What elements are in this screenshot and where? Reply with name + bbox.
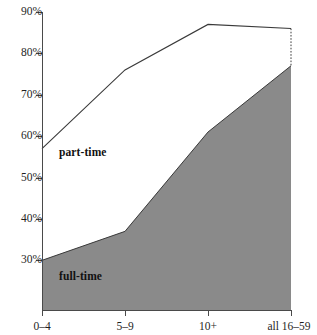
x-tick-label: 0–4 — [33, 320, 50, 332]
series-label-full-time: full-time — [59, 270, 102, 282]
y-tick-label: 40% — [8, 213, 42, 225]
chart-plot-area — [0, 0, 317, 335]
y-axis-line — [42, 12, 43, 310]
chart-figure: 30%40%50%60%70%80%90% 0–45–910+all 16–59… — [0, 0, 317, 335]
x-tick-label: 10+ — [199, 320, 217, 332]
y-tick-label: 50% — [8, 172, 42, 184]
x-axis-line — [42, 310, 291, 311]
x-tick-label: all 16–59 — [267, 320, 310, 332]
y-tick-label: 70% — [8, 89, 42, 101]
x-tick-mark — [125, 310, 126, 316]
y-tick-label: 90% — [8, 6, 42, 18]
x-tick-mark — [291, 310, 292, 316]
y-tick-label: 30% — [8, 254, 42, 266]
x-tick-label: 5–9 — [116, 320, 133, 332]
y-tick-label: 80% — [8, 47, 42, 59]
x-tick-mark — [208, 310, 209, 316]
x-tick-mark — [42, 310, 43, 316]
series-label-part-time: part-time — [59, 146, 107, 158]
y-tick-label: 60% — [8, 130, 42, 142]
